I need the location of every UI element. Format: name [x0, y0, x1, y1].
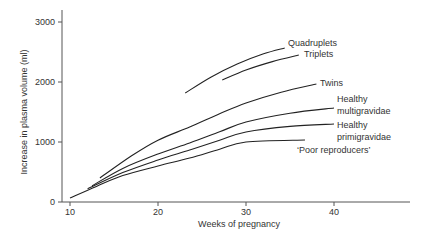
label-twins: Twins	[320, 78, 344, 88]
label-healthy-multigravidae: Healthy	[337, 94, 368, 104]
x-tick-label: 20	[153, 207, 163, 217]
curve-quadruplets	[185, 48, 284, 93]
plasma-volume-chart: 010002000300010203040 QuadrupletsTriplet…	[0, 0, 424, 244]
label-triplets: Triplets	[304, 49, 334, 59]
label-healthy-primigravidae: Healthy	[337, 120, 368, 130]
x-tick-label: 10	[65, 207, 75, 217]
curve-healthy-primigravidae	[88, 124, 334, 189]
y-tick-label: 3000	[35, 17, 55, 27]
label-poor-reproducers: ‘Poor reproducers’	[297, 145, 371, 155]
label-healthy-multigravidae: multigravidae	[337, 106, 391, 116]
x-axis-label: Weeks of pregnancy	[198, 219, 280, 229]
curve-poor-reproducers	[70, 140, 305, 198]
y-tick-label: 2000	[35, 77, 55, 87]
x-tick-label: 30	[241, 207, 251, 217]
x-tick-label: 40	[329, 207, 339, 217]
y-tick-label: 1000	[35, 137, 55, 147]
curves	[70, 48, 334, 198]
label-quadruplets: Quadruplets	[288, 38, 338, 48]
y-axis-label: Increase in plasma volume (ml)	[19, 49, 29, 174]
y-tick-label: 0	[50, 197, 55, 207]
label-healthy-primigravidae: primigravidae	[337, 132, 391, 142]
curve-triplets	[222, 55, 299, 80]
series-labels: QuadrupletsTripletsTwinsHealthymultigrav…	[288, 38, 391, 155]
